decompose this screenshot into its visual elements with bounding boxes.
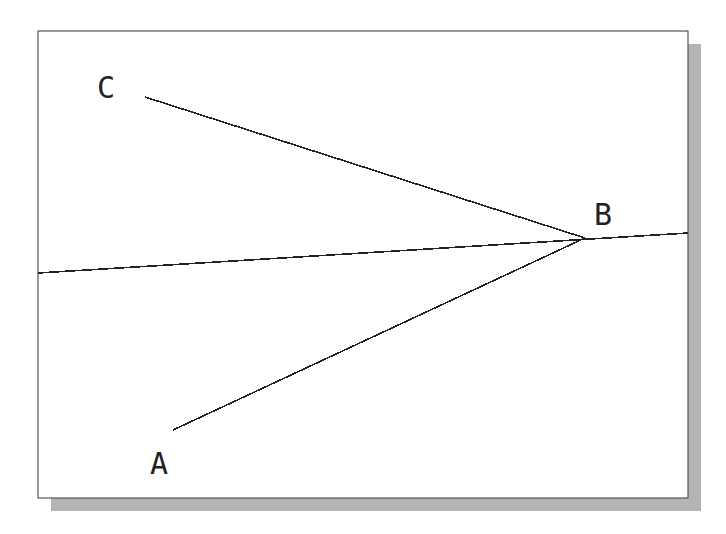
point-label-a: A <box>150 446 168 481</box>
point-label-b: B <box>594 197 612 232</box>
geometry-diagram: A B C <box>0 0 726 534</box>
diagram-frame <box>38 31 688 498</box>
point-label-c: C <box>97 70 115 105</box>
